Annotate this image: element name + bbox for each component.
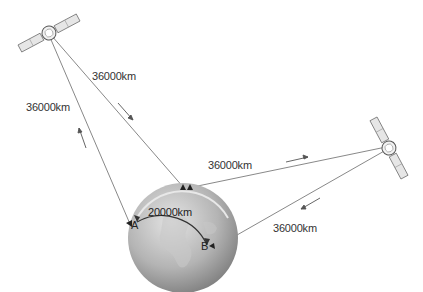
relay-diagram <box>0 0 423 292</box>
line-sat1-to-top <box>51 35 184 188</box>
label-top-link: 36000km <box>92 70 136 82</box>
label-left-link: 36000km <box>26 101 70 113</box>
line-sat1-to-a <box>49 35 130 224</box>
satellite-left <box>17 11 82 54</box>
satellite-right <box>367 116 410 181</box>
earth <box>128 183 238 292</box>
label-ground-distance: 20000km <box>148 206 192 218</box>
label-point-b: B <box>201 240 208 252</box>
label-right-bottom-link: 36000km <box>273 222 317 234</box>
label-right-top-link: 36000km <box>208 159 252 171</box>
label-point-a: A <box>131 219 138 231</box>
